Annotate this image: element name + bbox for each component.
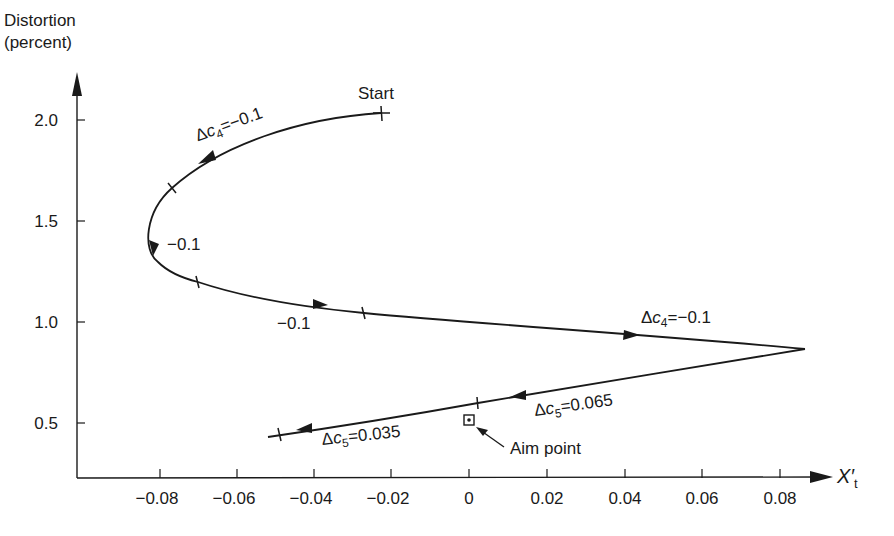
bend-step-label: −0.1 [167,236,201,253]
aim-point-marker [464,415,504,447]
arrow-icon [296,423,312,433]
x-tick-label: 0.08 [745,490,815,507]
start-label: Start [358,85,394,102]
subscript: 4 [661,316,668,330]
x-axis [77,469,833,483]
y-axis-title-line2: (percent) [4,32,76,54]
y-axis-title: Distortion (percent) [4,10,76,54]
delta-c4-label-2: Δc4=−0.1 [641,309,711,329]
x-axis-name-sub: t [854,476,858,491]
arrow-icon [510,390,526,400]
direction-arrows [149,150,640,433]
y-tick-label: 2.0 [20,112,58,129]
x-axis-title: X′t [837,466,858,490]
x-tick-label: −0.02 [353,490,423,507]
x-tick-label: 0.06 [667,490,737,507]
variable: c [652,308,661,327]
x-tick-label: 0.02 [512,490,582,507]
x-tick-label: −0.06 [199,490,269,507]
lower-step-label: −0.1 [277,315,311,332]
x-tick-label: 0.04 [590,490,660,507]
x-axis-name: X′ [837,465,854,487]
x-tick-label: 0 [434,490,504,507]
x-tick-label: −0.04 [276,490,346,507]
y-axis [72,72,85,478]
optimization-path [148,113,805,437]
x-axis-arrow-icon [810,471,833,483]
y-tick-label: 0.5 [20,415,58,432]
x-tick-label: −0.08 [122,490,192,507]
chart-canvas [0,0,894,536]
value: =−0.1 [668,308,712,327]
aim-point-label: Aim point [510,440,581,457]
value: =0.035 [347,422,401,446]
y-tick-label: 1.5 [20,213,58,230]
y-axis-title-line1: Distortion [4,10,76,32]
delta-symbol: Δ [641,308,652,327]
arrow-icon [198,150,216,164]
y-axis-arrow-icon [72,72,82,96]
y-tick-label: 1.0 [20,314,58,331]
arrow-icon [623,330,640,340]
